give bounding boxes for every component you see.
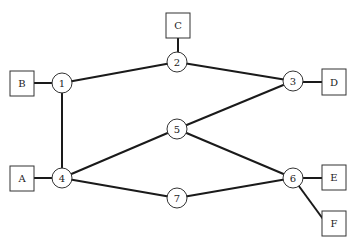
terminal-C-label: C xyxy=(174,20,182,31)
node-2: 2 xyxy=(167,52,187,72)
node-4: 4 xyxy=(52,168,72,188)
node-6: 6 xyxy=(283,168,303,188)
node-7-label: 7 xyxy=(174,193,180,204)
node-6-label: 6 xyxy=(290,173,296,184)
terminal-F-label: F xyxy=(331,218,338,229)
terminal-B-label: B xyxy=(18,78,25,89)
terminal-C: C xyxy=(166,13,190,38)
node-3: 3 xyxy=(283,71,303,91)
edge-5-6 xyxy=(177,129,293,178)
network-diagram: B C D A E F 1 2 xyxy=(0,0,356,243)
nodes: 1 2 3 4 5 6 7 xyxy=(52,52,303,208)
node-1-label: 1 xyxy=(59,78,65,89)
node-5: 5 xyxy=(167,119,187,139)
edge-3-5 xyxy=(177,81,293,129)
edge-4-5 xyxy=(62,129,177,178)
node-4-label: 4 xyxy=(59,173,65,184)
edge-7-6 xyxy=(177,178,293,198)
node-7: 7 xyxy=(167,188,187,208)
terminal-E: E xyxy=(322,165,346,190)
node-2-label: 2 xyxy=(174,57,180,68)
terminal-A: A xyxy=(10,166,34,191)
terminal-B: B xyxy=(10,71,34,96)
node-3-label: 3 xyxy=(290,76,296,87)
edge-2-3 xyxy=(177,62,293,81)
terminal-D: D xyxy=(322,69,346,95)
edge-4-7 xyxy=(62,178,177,198)
edge-1-2 xyxy=(62,62,177,83)
node-1: 1 xyxy=(52,73,72,93)
terminal-A-label: A xyxy=(17,173,26,184)
terminal-D-label: D xyxy=(330,77,338,88)
node-5-label: 5 xyxy=(174,124,180,135)
terminal-F: F xyxy=(322,211,346,236)
terminal-E-label: E xyxy=(330,172,337,183)
